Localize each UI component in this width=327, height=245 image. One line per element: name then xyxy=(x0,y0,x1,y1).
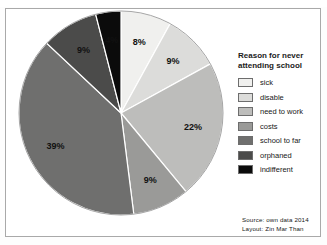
legend-title-line-2: attending school xyxy=(238,61,318,71)
pie-slice-group xyxy=(19,11,223,215)
legend-swatch-need-to-work xyxy=(238,107,253,116)
source-line: Source: own data 2014 xyxy=(242,216,309,225)
chart-legend: Reason for never attending school sickdi… xyxy=(238,51,322,178)
legend-swatch-orphaned xyxy=(238,151,253,160)
legend-item: sick xyxy=(238,76,322,89)
legend-item: school to far xyxy=(238,134,322,147)
legend-swatch-costs xyxy=(238,122,253,131)
pie-slice-label-costs: 9% xyxy=(144,175,157,185)
pie-slice-label-sick: 8% xyxy=(133,37,146,47)
layout-credit-line: Layout: Zin Mar Than xyxy=(242,225,309,234)
legend-item: need to work xyxy=(238,105,322,118)
figure-canvas: 8%9%22%9%39%9%4% Reason for never attend… xyxy=(0,0,327,245)
legend-swatch-school-to-far xyxy=(238,136,253,145)
pie-slice-label-school-to-far: 39% xyxy=(47,141,65,151)
legend-title-line-1: Reason for never xyxy=(238,51,318,61)
cropped-header-strip xyxy=(0,0,327,7)
pie-slice-label-indifferent: 4% xyxy=(105,35,118,45)
legend-item-label: school to far xyxy=(260,136,301,145)
legend-item: orphaned xyxy=(238,149,322,162)
legend-item-label: sick xyxy=(260,78,273,87)
legend-item-label: costs xyxy=(260,122,278,131)
pie-slice-label-disable: 9% xyxy=(166,56,179,66)
legend-item: disable xyxy=(238,91,322,104)
legend-swatch-indifferent xyxy=(238,165,253,174)
legend-item-label: need to work xyxy=(260,107,303,116)
legend-swatch-disable xyxy=(238,93,253,102)
source-credit-block: Source: own data 2014 Layout: Zin Mar Th… xyxy=(242,216,309,233)
legend-item-label: disable xyxy=(260,93,284,102)
chart-frame: 8%9%22%9%39%9%4% Reason for never attend… xyxy=(5,8,321,237)
legend-item: indifferent xyxy=(238,163,322,176)
pie-slice-label-orphaned: 9% xyxy=(77,45,90,55)
legend-item: costs xyxy=(238,120,322,133)
legend-items-list: sickdisableneed to workcostsschool to fa… xyxy=(238,76,322,176)
legend-title: Reason for never attending school xyxy=(238,51,318,70)
legend-swatch-sick xyxy=(238,78,253,87)
pie-slice-label-need-to-work: 22% xyxy=(184,122,202,132)
legend-item-label: indifferent xyxy=(260,165,293,174)
legend-item-label: orphaned xyxy=(260,151,292,160)
